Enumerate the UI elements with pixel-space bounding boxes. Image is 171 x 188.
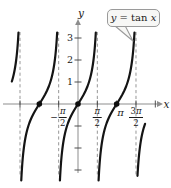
callout-label: y = tan x: [111, 13, 157, 23]
zero-point-dot: [114, 101, 120, 107]
tan-plot-canvas: [0, 0, 171, 188]
zero-point-dot: [37, 101, 43, 107]
zero-point-dot: [75, 101, 81, 107]
callout-tail: [115, 26, 134, 42]
tan-curve-branch: [12, 33, 19, 82]
figure-tan-graph: xy321−π2π2π3π2 y = tan x: [0, 0, 171, 188]
callout-y-tan-x: y = tan x: [107, 9, 160, 27]
x-axis-arrow-icon: [157, 101, 163, 107]
y-axis-arrow-icon: [75, 19, 81, 25]
tan-curve-branch: [137, 124, 145, 176]
